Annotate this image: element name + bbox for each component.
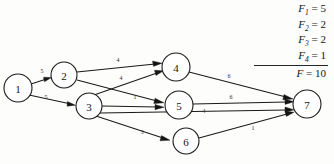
- flow-row-4: F4 = 1: [254, 49, 328, 66]
- node-2-label: 2: [61, 70, 67, 82]
- edge-2-to-5-arrowhead: [154, 98, 164, 103]
- edge-2-to-4-label: 4: [117, 57, 120, 63]
- edge-1-to-2-arrowhead: [44, 77, 52, 82]
- edge-3-to-6: 3: [96, 116, 170, 141]
- flow-value-2: = 2: [312, 18, 326, 30]
- edge-1-to-3-line: [29, 95, 71, 104]
- edge-1-to-3: 5: [29, 94, 76, 106]
- flow-subscript-2: 2: [305, 24, 309, 33]
- edge-6-to-7-line: [199, 114, 287, 138]
- node-3[interactable]: 3: [76, 93, 102, 119]
- flow-value-legend: F1 = 5 F2 = 2 F3 = 2 F4 = 1 F = 10: [254, 2, 328, 81]
- edge-3-to-5-arrowhead: [155, 104, 164, 109]
- edge-2-to-4-line: [77, 64, 155, 72]
- edge-6-to-7: 1: [199, 111, 294, 138]
- node-1-label: 1: [15, 83, 21, 95]
- node-6-label: 6: [183, 136, 189, 148]
- edge-1-to-3-label: 5: [45, 94, 48, 100]
- flow-subscript-1: 1: [305, 8, 309, 17]
- edge-3-to-7: 4: [100, 107, 294, 114]
- edge-6-to-7-arrowhead: [285, 111, 294, 116]
- edge-3-to-7-line: [100, 110, 287, 113]
- node-5[interactable]: 5: [165, 91, 193, 119]
- edge-1-to-3-arrowhead: [67, 102, 76, 107]
- node-1[interactable]: 1: [4, 74, 32, 102]
- edge-6-to-7-label: 1: [252, 125, 255, 131]
- edge-3-to-4-line: [94, 73, 157, 95]
- flow-subscript-3: 3: [305, 40, 309, 49]
- edge-2-to-5-label: 4: [120, 75, 123, 81]
- node-7-label: 7: [304, 99, 310, 111]
- edge-1-to-2-label: 5: [41, 68, 44, 74]
- flow-value-3: = 2: [312, 33, 326, 45]
- edge-3-to-6-label: 3: [141, 129, 144, 135]
- edge-1-to-2: 5: [31, 68, 52, 84]
- flow-value-4: = 1: [312, 49, 326, 61]
- edge-4-to-7-arrowhead: [283, 95, 293, 100]
- edge-3-to-5-line: [102, 106, 157, 107]
- flow-row-total: F = 10: [254, 66, 328, 81]
- node-7[interactable]: 7: [293, 90, 321, 118]
- flow-symbol-total: F: [297, 67, 304, 79]
- node-2[interactable]: 2: [51, 62, 77, 88]
- node-3-label: 3: [86, 101, 92, 113]
- node-4[interactable]: 4: [162, 53, 190, 81]
- diagram-page: 5 5 4 4: [0, 0, 334, 164]
- edge-3-to-7-label: 4: [203, 108, 206, 114]
- flow-value-1: = 5: [312, 2, 326, 14]
- node-5-label: 5: [176, 100, 182, 112]
- edge-5-to-7-line: [193, 102, 287, 104]
- node-6[interactable]: 6: [173, 128, 199, 154]
- flow-row-1: F1 = 5: [254, 2, 328, 18]
- edge-2-to-4: 4: [77, 57, 162, 72]
- edge-3-to-4: [94, 70, 164, 95]
- flow-subscript-4: 4: [305, 55, 309, 64]
- flow-row-2: F2 = 2: [254, 18, 328, 34]
- flow-value-total: = 10: [306, 67, 326, 79]
- edge-4-to-7-label: 6: [228, 73, 231, 79]
- edge-5-to-7-label: 6: [230, 94, 233, 100]
- edge-2-to-4-arrowhead: [153, 61, 163, 66]
- flow-row-3: F3 = 2: [254, 33, 328, 49]
- edge-3-to-6-arrowhead: [160, 136, 170, 141]
- edge-3-to-5-label: 1: [134, 94, 137, 100]
- edge-3-to-6-line: [96, 116, 163, 138]
- node-4-label: 4: [173, 62, 179, 74]
